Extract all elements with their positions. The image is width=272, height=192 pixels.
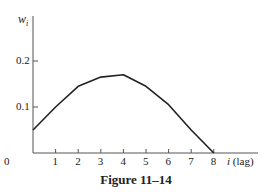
x-tick-label: 4 [120,156,126,167]
x-axis-label-unit: (lag) [233,155,254,167]
y-axis-label-main: w [18,12,26,26]
x-tick-label: 5 [143,156,149,167]
y-axis-label: wi [18,14,28,29]
figure-caption: Figure 11–14 [0,172,272,188]
y-tick-label-0.1: 0.1 [16,101,30,112]
x-axis-label-var: i [227,155,230,167]
data-line [33,75,214,153]
x-tick-label: 7 [188,156,194,167]
x-tick-label: 8 [211,156,217,167]
x-tick-label: 1 [53,156,59,167]
y-axis-label-sub: i [26,19,28,28]
x-tick-label: 0 [4,156,10,167]
x-tick-label: 3 [98,156,104,167]
x-tick-label: 6 [166,156,172,167]
x-tick-label: 2 [75,156,81,167]
x-axis-label: i (lag) [227,156,254,167]
y-tick-label-0.2: 0.2 [16,55,30,66]
